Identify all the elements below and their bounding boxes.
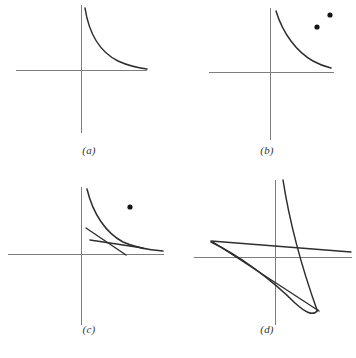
panel-a: (a) xyxy=(0,0,178,179)
hyperbola-branch-curve xyxy=(85,8,147,69)
hyperbola-branch-curve xyxy=(276,11,331,68)
lower-arc-curve xyxy=(211,242,318,313)
panel-b: (b) xyxy=(178,0,356,179)
secant-line-steep xyxy=(213,242,319,311)
four-panel-figure: (a) (b) (c) (d) xyxy=(0,0,356,358)
secant-line xyxy=(86,228,126,255)
sample-point-1 xyxy=(127,204,132,209)
sample-point-1 xyxy=(327,12,332,17)
panel-label-d: (d) xyxy=(178,323,356,335)
panel-label-c: (c) xyxy=(0,323,178,335)
sample-point-2 xyxy=(314,24,319,29)
secant-line-upper xyxy=(211,241,351,252)
chord-line xyxy=(90,240,143,248)
panel-c: (c) xyxy=(0,179,178,358)
panel-d: (d) xyxy=(178,179,356,358)
panel-label-a: (a) xyxy=(0,144,178,156)
panel-label-b: (b) xyxy=(178,144,356,156)
